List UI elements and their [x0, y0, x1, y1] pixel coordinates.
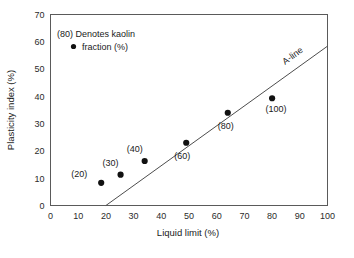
y-axis-ticks: 010203040506070 [34, 10, 54, 211]
legend-marker-icon [71, 44, 76, 49]
y-tick-label: 40 [34, 92, 44, 102]
data-point-label: (30) [103, 158, 119, 168]
x-tick-label: 10 [73, 211, 83, 221]
x-tick-label: 100 [320, 211, 335, 221]
x-tick-label: 80 [267, 211, 277, 221]
data-point [225, 110, 231, 116]
data-point-label: (20) [71, 169, 87, 179]
x-tick-label: 0 [48, 211, 53, 221]
data-point-label: (100) [266, 104, 287, 114]
y-tick-label: 10 [34, 174, 44, 184]
data-point [183, 140, 189, 146]
x-tick-label: 20 [101, 211, 111, 221]
y-tick-label: 70 [34, 10, 44, 20]
x-axis-title: Liquid limit (%) [157, 227, 219, 238]
data-point [98, 180, 104, 186]
x-tick-label: 30 [129, 211, 139, 221]
y-tick-label: 50 [34, 64, 44, 74]
y-tick-label: 0 [39, 201, 44, 211]
a-line [106, 46, 328, 205]
x-tick-label: 90 [295, 211, 305, 221]
data-point [142, 158, 148, 164]
data-point-label: (40) [127, 144, 143, 154]
legend-line-kaolin: (80) Denotes kaolin [57, 29, 135, 39]
x-tick-label: 50 [184, 211, 194, 221]
chart-figure: 0102030405060708090100 010203040506070 A… [0, 0, 354, 258]
data-point-label: (60) [174, 151, 190, 161]
data-point [269, 95, 275, 101]
legend-line-fraction: fraction (%) [82, 42, 128, 52]
a-line-annotation: A-line [106, 45, 328, 206]
x-tick-label: 40 [156, 211, 166, 221]
legend: (80) Denotes kaolin fraction (%) [57, 29, 135, 52]
y-tick-label: 60 [34, 37, 44, 47]
y-axis-title: Plasticity index (%) [5, 70, 16, 150]
data-point [117, 172, 123, 178]
x-axis-ticks: 0102030405060708090100 [48, 202, 335, 221]
data-series: (20)(30)(40)(60)(80)(100) [71, 95, 286, 186]
y-tick-label: 30 [34, 119, 44, 129]
y-tick-label: 20 [34, 146, 44, 156]
x-tick-label: 60 [212, 211, 222, 221]
x-tick-label: 70 [239, 211, 249, 221]
chart-canvas: 0102030405060708090100 010203040506070 A… [0, 0, 354, 258]
data-point-label: (80) [218, 121, 234, 131]
a-line-label: A-line [280, 45, 305, 67]
